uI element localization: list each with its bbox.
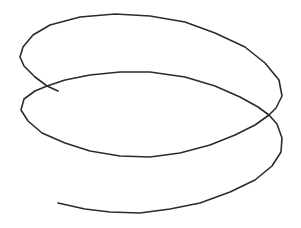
spiral-drawing (0, 0, 301, 228)
spiral-line (20, 14, 282, 213)
drawing-canvas (0, 0, 301, 228)
